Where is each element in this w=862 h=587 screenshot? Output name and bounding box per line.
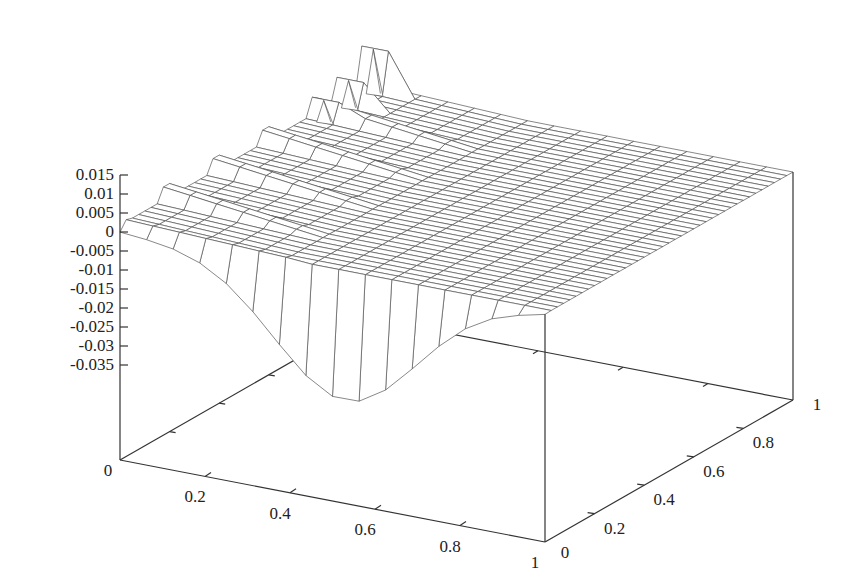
- surface-mesh: [120, 46, 793, 401]
- x-tick-label: 1: [531, 553, 540, 572]
- y-tick: [637, 484, 644, 485]
- x-tick-label: 0.4: [269, 504, 291, 523]
- x-tick: [375, 505, 381, 509]
- x-tick-label: 0.8: [439, 537, 460, 556]
- y-tick-label: 0.4: [654, 490, 676, 509]
- z-tick-label: -0.015: [70, 279, 114, 298]
- floor-back-axes: [120, 318, 793, 460]
- y-tick-label: 0.2: [604, 519, 625, 538]
- y-tick-label: 0.6: [703, 462, 724, 481]
- left-y-tick: [219, 403, 225, 404]
- z-tick-label: -0.02: [79, 298, 114, 317]
- y-tick: [736, 427, 743, 428]
- z-tick-label: -0.01: [79, 260, 114, 279]
- x-tick-label: 0.2: [184, 487, 205, 506]
- z-tick-label: 0.01: [84, 184, 114, 203]
- mesh-cell: [200, 239, 233, 284]
- mesh-cell: [226, 245, 259, 312]
- y-tick-label: 0: [561, 543, 570, 562]
- x-tick-label: 0: [104, 461, 113, 480]
- z-tick-label: -0.035: [70, 355, 114, 374]
- x-tick: [205, 472, 211, 476]
- x-tick-label: 0.6: [354, 520, 375, 539]
- x-tick: [460, 522, 466, 526]
- back-x-tick: [533, 351, 538, 354]
- z-tick-label: 0.005: [76, 203, 114, 222]
- surface-plot: 0.0150.010.0050-0.005-0.01-0.015-0.02-0.…: [0, 0, 862, 587]
- left-y-tick: [170, 432, 176, 433]
- back-x-tick: [703, 384, 708, 387]
- left-y-tick: [269, 375, 275, 376]
- y-tick-label: 0.8: [753, 433, 774, 452]
- y-tick: [588, 513, 595, 514]
- y-tick: [687, 456, 694, 457]
- z-tick-label: 0.015: [76, 165, 114, 184]
- x-tick: [290, 489, 296, 493]
- z-tick-label: -0.025: [70, 317, 114, 336]
- y-axis: [545, 400, 793, 542]
- y-tick-label: 1: [813, 395, 822, 414]
- z-tick-label: -0.03: [79, 336, 114, 355]
- back-x-tick: [618, 367, 623, 370]
- z-tick-label: -0.005: [70, 241, 114, 260]
- z-tick-label: 0: [106, 222, 115, 241]
